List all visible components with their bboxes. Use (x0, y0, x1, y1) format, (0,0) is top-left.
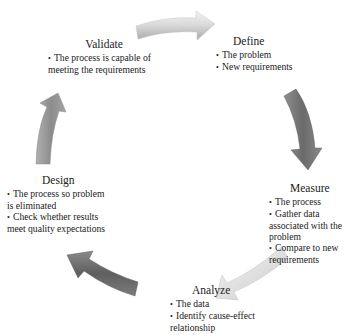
bullet-item: Gather data associated with the problem (269, 208, 350, 242)
bullet-item: Identify cause-effect relationship (170, 310, 280, 333)
stage-bullets: The problem New requirements (216, 49, 316, 73)
stage-bullets: The process so problem is eliminated Che… (7, 188, 111, 234)
bullet-item: The process (269, 196, 350, 208)
stage-bullets: The process Gather data associated with … (269, 196, 350, 265)
bullet-item: Compare to new requirements (269, 242, 350, 265)
bullet-item: The process is capable of meeting the re… (48, 52, 160, 75)
arrow-validate-to-define (136, 11, 215, 40)
stage-validate: Validate The process is capable of meeti… (48, 38, 160, 75)
bullet-item: New requirements (216, 61, 316, 73)
stage-analyze: Analyze The data Identify cause-effect r… (170, 284, 280, 333)
stage-design: Design The process so problem is elimina… (7, 174, 111, 234)
arrow-analyze-to-design (67, 251, 138, 296)
arrow-design-to-validate (36, 93, 66, 164)
arrow-define-to-measure (284, 89, 322, 170)
bullet-item: The problem (216, 49, 316, 61)
stage-title: Measure (269, 182, 350, 195)
stage-measure: Measure The process Gather data associat… (269, 182, 350, 265)
stage-bullets: The data Identify cause-effect relations… (170, 298, 280, 333)
bullet-item: Check whether results meet quality expec… (7, 211, 111, 234)
stage-bullets: The process is capable of meeting the re… (48, 52, 160, 75)
stage-title: Validate (48, 38, 160, 51)
stage-title: Analyze (170, 284, 280, 297)
stage-define: Define The problem New requirements (216, 35, 316, 73)
stage-title: Define (216, 35, 316, 48)
bullet-item: The process so problem is eliminated (7, 188, 111, 211)
stage-title: Design (7, 174, 111, 187)
bullet-item: The data (170, 298, 280, 310)
